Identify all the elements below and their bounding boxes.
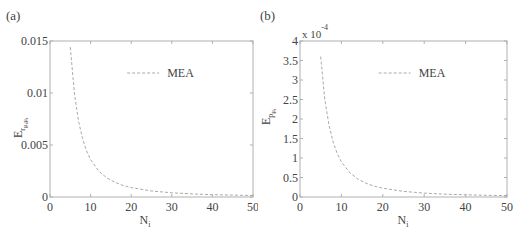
chart-b-svg: (b) x 10-4 0102030405000.511.522.533.54M… [258, 0, 517, 235]
svg-text:Epμi: Epμi [259, 108, 277, 125]
y-tick-label: 0.01 [27, 86, 48, 100]
y-tick-label: 4 [292, 34, 298, 48]
x-tick-label: 40 [460, 200, 472, 214]
y-tick-label: 2 [292, 112, 298, 126]
y-tick-label: 0.015 [21, 34, 48, 48]
y-tick-label: 2.5 [283, 93, 298, 107]
x-tick-label: 30 [418, 200, 430, 214]
plot-frame [300, 41, 507, 197]
svg-text:Ni: Ni [398, 213, 410, 229]
y-tick-label: 0 [42, 190, 48, 204]
x-tick-label: 10 [85, 200, 97, 214]
x-tick-label: 50 [501, 200, 513, 214]
y-axis-label-b: Epμi [259, 108, 277, 125]
chart-panel-a: (a) 0102030405000.0050.010.015MEA Ni Erμ… [0, 0, 258, 235]
x-tick-label: 50 [247, 200, 258, 214]
y-axis-label-a: Erμiμi [11, 117, 29, 138]
y-tick-label: 1 [292, 151, 298, 165]
legend-label: MEA [419, 66, 446, 80]
y-tick-label: 1.5 [283, 132, 298, 146]
x-tick-label: 20 [377, 200, 389, 214]
chart-panel-b: (b) x 10-4 0102030405000.511.522.533.54M… [258, 0, 516, 235]
x-tick-label: 20 [125, 200, 137, 214]
x-tick-label: 30 [166, 200, 178, 214]
series-line-mea [321, 57, 507, 196]
y-tick-label: 3 [292, 73, 298, 87]
plot-area-b: 0102030405000.511.522.533.54MEA [283, 34, 513, 214]
y-tick-label: 0.005 [21, 138, 48, 152]
legend-label: MEA [167, 66, 194, 80]
y-multiplier-b: x 10-4 [302, 23, 328, 40]
x-tick-label: 40 [206, 200, 218, 214]
x-tick-label: 10 [335, 200, 347, 214]
plot-frame [50, 41, 253, 197]
plot-area-a: 0102030405000.0050.010.015MEA [21, 34, 258, 214]
x-axis-label-b: Ni [398, 213, 410, 229]
chart-a-svg: (a) 0102030405000.0050.010.015MEA Ni Erμ… [0, 0, 258, 235]
panel-label-a: (a) [6, 8, 20, 23]
svg-text:Erμiμi: Erμiμi [11, 117, 29, 138]
x-axis-label-a: Ni [140, 213, 152, 229]
y-tick-label: 0.5 [283, 171, 298, 185]
series-line-mea [70, 47, 253, 195]
y-tick-label: 3.5 [283, 54, 298, 68]
svg-text:Ni: Ni [140, 213, 152, 229]
y-tick-label: 0 [292, 190, 298, 204]
panel-label-b: (b) [260, 8, 275, 23]
